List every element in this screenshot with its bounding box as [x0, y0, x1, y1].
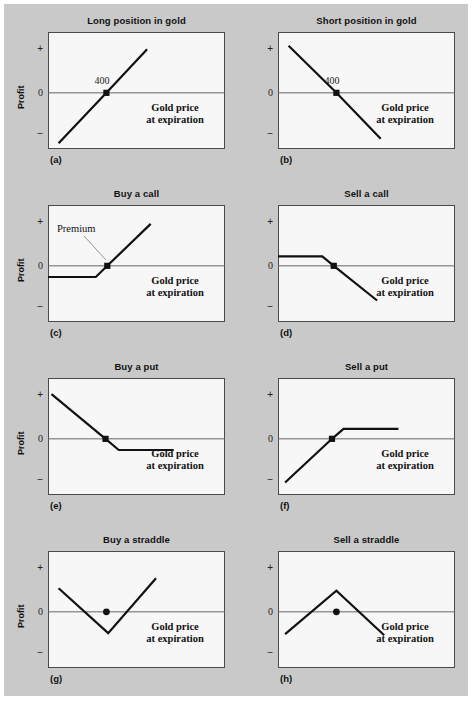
chart-panel-h: Sell a straddle+0−Gold priceat expiratio… — [4, 4, 468, 696]
strike-marker-h — [333, 608, 340, 615]
payoff-graphic-h — [4, 4, 468, 696]
figure-canvas: Long position in goldProfit+0−Gold price… — [4, 4, 468, 696]
